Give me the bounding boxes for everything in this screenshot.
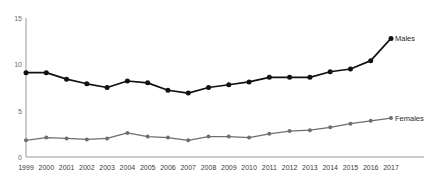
x-tick-label-2003: 2003	[99, 164, 115, 171]
line-chart: 15 10 5 0 199920002001200220032004200520…	[0, 0, 436, 184]
data-point-females-2006	[166, 136, 170, 140]
data-point-females-2005	[146, 135, 150, 139]
data-point-males-2002	[84, 81, 89, 86]
x-tick-label-2012: 2012	[282, 164, 298, 171]
series-females	[24, 116, 393, 142]
data-point-females-2000	[44, 136, 48, 140]
data-point-females-2010	[247, 136, 251, 140]
data-point-males-2012	[287, 75, 292, 80]
chart-plot-area: 15 10 5 0 199920002001200220032004200520…	[0, 0, 436, 184]
x-tick-label-2006: 2006	[160, 164, 176, 171]
data-point-males-2011	[267, 75, 272, 80]
data-point-males-2004	[125, 79, 130, 84]
data-point-females-2008	[207, 135, 211, 139]
data-point-females-2016	[369, 119, 373, 123]
data-point-males-2010	[247, 79, 252, 84]
y-tick-label-15: 15	[14, 15, 22, 22]
x-tick-label-2015: 2015	[343, 164, 359, 171]
data-point-males-2005	[145, 80, 150, 85]
data-point-males-2013	[307, 75, 312, 80]
data-point-females-2013	[308, 128, 312, 132]
x-tick-label-2016: 2016	[363, 164, 379, 171]
data-point-females-2003	[105, 136, 109, 140]
y-tick-label-0: 0	[18, 154, 22, 161]
x-tick-label-2013: 2013	[302, 164, 318, 171]
data-point-females-2007	[186, 138, 190, 142]
data-point-males-2016	[368, 58, 373, 63]
series-group	[24, 36, 394, 142]
y-tick-label-10: 10	[14, 61, 22, 68]
x-tick-label-2002: 2002	[79, 164, 95, 171]
data-point-males-1999	[24, 70, 29, 75]
x-tick-label-2001: 2001	[59, 164, 75, 171]
data-point-females-1999	[24, 138, 28, 142]
series-label-females: Females	[395, 114, 424, 123]
data-point-males-2006	[165, 88, 170, 93]
data-point-females-2017	[389, 116, 393, 120]
series-label-males: Males	[395, 34, 415, 43]
data-point-males-2007	[186, 91, 191, 96]
data-point-males-2000	[44, 70, 49, 75]
data-point-males-2009	[226, 82, 231, 87]
x-tick-label-2017: 2017	[383, 164, 399, 171]
series-males	[24, 36, 394, 96]
x-tick-label-2007: 2007	[180, 164, 196, 171]
data-point-males-2015	[348, 66, 353, 71]
data-point-females-2001	[65, 136, 69, 140]
x-axis-tick-labels: 1999200020012002200320042005200620072008…	[18, 164, 399, 171]
data-point-females-2009	[227, 135, 231, 139]
data-point-females-2011	[267, 132, 271, 136]
data-point-females-2014	[328, 125, 332, 129]
data-point-females-2012	[288, 129, 292, 133]
x-tick-label-2009: 2009	[221, 164, 237, 171]
data-point-males-2008	[206, 85, 211, 90]
x-tick-label-2008: 2008	[201, 164, 217, 171]
x-tick-label-2005: 2005	[140, 164, 156, 171]
y-tick-label-5: 5	[18, 108, 22, 115]
data-point-males-2003	[105, 85, 110, 90]
data-point-males-2001	[64, 77, 69, 82]
data-point-males-2014	[328, 69, 333, 74]
data-point-females-2004	[125, 131, 129, 135]
x-tick-label-1999: 1999	[18, 164, 34, 171]
x-tick-label-2010: 2010	[241, 164, 257, 171]
x-tick-label-2004: 2004	[120, 164, 136, 171]
data-point-females-2015	[348, 122, 352, 126]
x-tick-label-2014: 2014	[322, 164, 338, 171]
series-line-males	[26, 38, 391, 93]
data-point-males-2017	[389, 36, 394, 41]
x-tick-label-2011: 2011	[262, 164, 277, 171]
x-tick-label-2000: 2000	[38, 164, 54, 171]
data-point-females-2002	[85, 137, 89, 141]
